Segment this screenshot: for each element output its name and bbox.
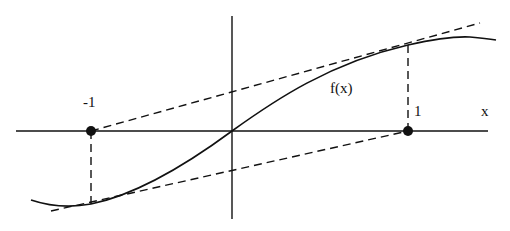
point-one (403, 126, 413, 136)
label-function: f(x) (330, 81, 353, 96)
lower-dashed-line (51, 131, 408, 211)
point-neg-one (86, 126, 96, 136)
label-neg-one: -1 (83, 95, 96, 110)
label-one: 1 (414, 104, 422, 119)
label-x-axis: x (481, 104, 489, 119)
function-plot (0, 0, 510, 231)
diagram-canvas: -1 1 x f(x) (0, 0, 510, 231)
function-curve (31, 37, 496, 206)
upper-dashed-line (91, 23, 480, 131)
